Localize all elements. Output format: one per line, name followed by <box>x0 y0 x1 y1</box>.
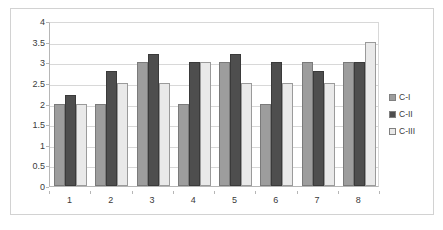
bar-group <box>339 23 380 186</box>
legend-item-c-i[interactable]: C-I <box>389 89 433 106</box>
chart-container: 00.511.522.533.54 12345678 C-IC-IIC-III <box>10 8 434 215</box>
y-tick-label: 1.5 <box>15 121 45 130</box>
x-tick-label: 8 <box>338 195 378 205</box>
bar <box>65 95 76 186</box>
bar-group <box>133 23 174 186</box>
x-tick-label: 3 <box>132 195 172 205</box>
bar <box>148 54 159 186</box>
y-tick-label: 1 <box>15 141 45 150</box>
bar <box>54 104 65 187</box>
x-tick-mark <box>297 191 298 194</box>
legend-label: C-III <box>399 127 415 136</box>
y-tick-label: 2 <box>15 100 45 109</box>
y-tick-mark <box>46 187 49 188</box>
bar <box>219 62 230 186</box>
bar <box>137 62 148 186</box>
bar-group <box>298 23 339 186</box>
bar-group <box>256 23 297 186</box>
x-tick-label: 2 <box>91 195 131 205</box>
bar-group <box>50 23 91 186</box>
bar <box>106 71 117 187</box>
x-tick-mark <box>132 191 133 194</box>
x-tick-mark <box>173 191 174 194</box>
x-tick-mark <box>255 191 256 194</box>
bar-group <box>174 23 215 186</box>
legend-item-c-ii[interactable]: C-II <box>389 106 433 123</box>
y-tick-label: 0.5 <box>15 162 45 171</box>
y-tick-label: 4 <box>15 18 45 27</box>
legend-swatch-icon <box>389 94 396 101</box>
x-tick-mark <box>214 191 215 194</box>
bar <box>95 104 106 187</box>
x-tick-label: 1 <box>50 195 90 205</box>
y-tick-label: 3.5 <box>15 38 45 47</box>
bar <box>178 104 189 187</box>
x-axis: 12345678 <box>49 191 379 211</box>
y-axis: 00.511.522.533.54 <box>11 22 45 187</box>
bar <box>302 62 313 186</box>
chart-legend: C-IC-IIC-III <box>389 89 433 140</box>
x-tick-label: 4 <box>173 195 213 205</box>
y-tick-label: 3 <box>15 59 45 68</box>
bar <box>324 83 335 186</box>
x-tick-mark <box>379 191 380 194</box>
x-tick-label: 5 <box>215 195 255 205</box>
bar <box>282 83 293 186</box>
y-tick-label: 0 <box>15 183 45 192</box>
bar <box>189 62 200 186</box>
bar <box>241 83 252 186</box>
bar <box>159 83 170 186</box>
bar <box>117 83 128 186</box>
bar-group <box>215 23 256 186</box>
x-tick-label: 7 <box>297 195 337 205</box>
x-tick-mark <box>338 191 339 194</box>
legend-item-c-iii[interactable]: C-III <box>389 123 433 140</box>
bar <box>354 62 365 186</box>
bar-group <box>91 23 132 186</box>
bar <box>76 104 87 187</box>
bar <box>313 71 324 187</box>
legend-label: C-II <box>399 110 413 119</box>
plot-area <box>49 22 379 187</box>
bar <box>271 62 282 186</box>
legend-swatch-icon <box>389 111 396 118</box>
legend-swatch-icon <box>389 128 396 135</box>
x-tick-label: 6 <box>256 195 296 205</box>
x-tick-mark <box>90 191 91 194</box>
bar <box>343 62 354 186</box>
x-tick-mark <box>49 191 50 194</box>
bar <box>230 54 241 186</box>
bar <box>260 104 271 187</box>
y-tick-label: 2.5 <box>15 79 45 88</box>
bar <box>200 62 211 186</box>
legend-label: C-I <box>399 93 410 102</box>
bar <box>365 42 376 186</box>
